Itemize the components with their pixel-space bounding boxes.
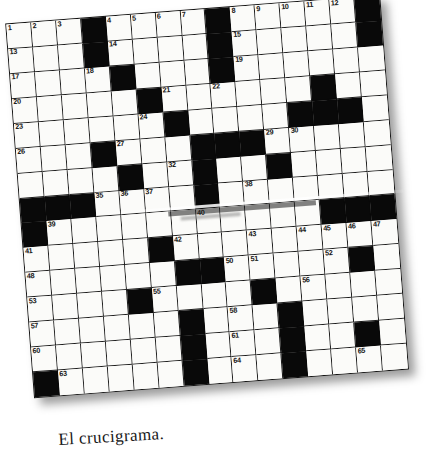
- crossword-cell[interactable]: [96, 216, 123, 243]
- crossword-cell[interactable]: 18: [85, 66, 112, 93]
- crossword-cell[interactable]: [364, 120, 391, 147]
- crossword-cell[interactable]: [381, 344, 408, 371]
- crossword-cell[interactable]: [291, 151, 318, 178]
- crossword-cell[interactable]: 56: [301, 275, 328, 302]
- crossword-cell[interactable]: [92, 166, 119, 193]
- crossword-cell[interactable]: [155, 336, 182, 363]
- crossword-cell[interactable]: 32: [167, 160, 194, 187]
- crossword-cell[interactable]: [67, 168, 94, 195]
- crossword-cell[interactable]: 45: [322, 223, 349, 250]
- crossword-cell[interactable]: [159, 61, 186, 88]
- crossword-cell[interactable]: [205, 332, 232, 359]
- crossword-cell[interactable]: 3: [56, 19, 83, 46]
- crossword-cell[interactable]: [331, 348, 358, 375]
- crossword-cell[interactable]: [184, 59, 211, 86]
- crossword-cell[interactable]: [54, 319, 81, 346]
- crossword-cell[interactable]: 5: [131, 13, 158, 40]
- crossword-cell[interactable]: [50, 269, 77, 296]
- crossword-cell[interactable]: 24: [138, 112, 165, 139]
- crossword-cell[interactable]: 52: [324, 248, 351, 275]
- crossword-cell[interactable]: 4: [106, 15, 133, 42]
- crossword-cell[interactable]: 38: [243, 179, 270, 206]
- crossword-grid[interactable]: 1234567891011121314151718192021222324262…: [5, 0, 409, 398]
- crossword-cell[interactable]: 10: [280, 1, 307, 28]
- crossword-cell[interactable]: [176, 284, 203, 311]
- crossword-cell[interactable]: 2: [31, 21, 58, 48]
- crossword-cell[interactable]: [236, 80, 263, 107]
- crossword-cell[interactable]: [375, 269, 402, 296]
- crossword-cell[interactable]: [379, 319, 406, 346]
- crossword-cell[interactable]: [41, 145, 68, 172]
- crossword-cell[interactable]: 42: [173, 235, 200, 262]
- crossword-cell[interactable]: [303, 300, 330, 327]
- crossword-cell[interactable]: 58: [228, 305, 255, 332]
- crossword-cell[interactable]: [113, 114, 140, 141]
- crossword-cell[interactable]: 47: [372, 219, 399, 246]
- crossword-cell[interactable]: 22: [211, 82, 238, 109]
- crossword-cell[interactable]: [171, 210, 198, 237]
- crossword-cell[interactable]: [318, 174, 345, 201]
- crossword-cell[interactable]: [222, 231, 249, 258]
- crossword-cell[interactable]: [352, 296, 379, 323]
- crossword-cell[interactable]: [142, 162, 169, 189]
- crossword-cell[interactable]: [129, 313, 156, 340]
- crossword-cell[interactable]: [64, 118, 91, 145]
- crossword-cell[interactable]: [242, 154, 269, 181]
- crossword-cell[interactable]: [104, 315, 131, 342]
- crossword-cell[interactable]: [106, 340, 133, 367]
- crossword-cell[interactable]: [77, 292, 104, 319]
- crossword-cell[interactable]: 46: [347, 221, 374, 248]
- crossword-cell[interactable]: [219, 181, 246, 208]
- crossword-cell[interactable]: 36: [119, 189, 146, 216]
- crossword-cell[interactable]: [261, 78, 288, 105]
- crossword-cell[interactable]: [188, 109, 215, 136]
- crossword-cell[interactable]: [213, 107, 240, 134]
- crossword-cell[interactable]: 7: [180, 9, 207, 36]
- crossword-cell[interactable]: [56, 344, 83, 371]
- crossword-cell[interactable]: 39: [46, 219, 73, 246]
- crossword-cell[interactable]: [316, 149, 343, 176]
- crossword-cell[interactable]: 35: [94, 191, 121, 218]
- crossword-cell[interactable]: [203, 307, 230, 334]
- crossword-cell[interactable]: [169, 185, 196, 212]
- crossword-cell[interactable]: [157, 36, 184, 63]
- crossword-cell[interactable]: 43: [247, 229, 274, 256]
- crossword-cell[interactable]: [373, 244, 400, 271]
- crossword-cell[interactable]: 26: [16, 147, 43, 174]
- crossword-cell[interactable]: [182, 34, 209, 61]
- crossword-cell[interactable]: 6: [155, 11, 182, 38]
- crossword-cell[interactable]: [305, 325, 332, 352]
- crossword-cell[interactable]: [314, 124, 341, 151]
- crossword-cell[interactable]: [358, 45, 385, 72]
- crossword-cell[interactable]: 11: [305, 0, 332, 26]
- crossword-cell[interactable]: [272, 227, 299, 254]
- crossword-cell[interactable]: [73, 242, 100, 269]
- crossword-cell[interactable]: 8: [230, 5, 257, 32]
- crossword-cell[interactable]: [339, 122, 366, 149]
- crossword-cell[interactable]: [307, 24, 334, 51]
- crossword-cell[interactable]: [245, 204, 272, 231]
- crossword-cell[interactable]: 50: [224, 256, 251, 283]
- crossword-cell[interactable]: [43, 170, 70, 197]
- crossword-cell[interactable]: 55: [152, 286, 179, 313]
- crossword-cell[interactable]: 30: [289, 126, 316, 153]
- crossword-cell[interactable]: [276, 277, 303, 304]
- crossword-cell[interactable]: [326, 273, 353, 300]
- crossword-cell[interactable]: [360, 70, 387, 97]
- crossword-cell[interactable]: 21: [161, 86, 188, 113]
- crossword-cell[interactable]: [217, 156, 244, 183]
- crossword-cell[interactable]: 61: [230, 330, 257, 357]
- crossword-cell[interactable]: [133, 38, 160, 65]
- crossword-cell[interactable]: [134, 63, 161, 90]
- crossword-cell[interactable]: [111, 89, 138, 116]
- crossword-cell[interactable]: [328, 298, 355, 325]
- crossword-cell[interactable]: [71, 218, 98, 245]
- crossword-cell[interactable]: [123, 239, 150, 266]
- crossword-cell[interactable]: [259, 53, 286, 80]
- crossword-cell[interactable]: [343, 172, 370, 199]
- crossword-cell[interactable]: [335, 72, 362, 99]
- crossword-cell[interactable]: 15: [232, 30, 259, 57]
- crossword-cell[interactable]: [257, 28, 284, 55]
- crossword-cell[interactable]: [150, 262, 177, 289]
- crossword-cell[interactable]: [133, 363, 160, 390]
